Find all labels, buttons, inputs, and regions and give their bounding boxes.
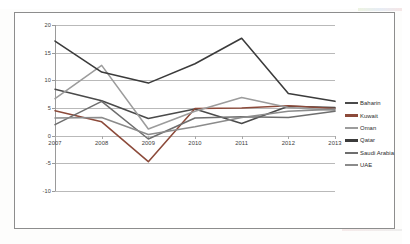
legend-item-label: UAE <box>360 162 372 168</box>
plot-area: 20151050-5-10 20072008200920102011201220… <box>55 25 335 191</box>
legend-swatch-icon <box>345 164 358 166</box>
legend-item-baharin[interactable]: Baharin <box>345 97 410 109</box>
y-axis-tick-label: -10 <box>43 188 51 194</box>
chart-frame: 20151050-5-10 20072008200920102011201220… <box>14 12 395 229</box>
series-line-qatar <box>55 38 335 101</box>
legend-item-oman[interactable]: Oman <box>345 122 410 134</box>
legend-item-label: Kuwait <box>360 113 378 119</box>
legend-item-saudi-arabia[interactable]: Saudi Arabia <box>345 147 410 159</box>
legend-swatch-icon <box>345 127 358 129</box>
chart-legend: BaharinKuwaitOmanQatarSaudi ArabiaUAE <box>345 97 410 171</box>
legend-item-label: Baharin <box>360 100 381 106</box>
y-axis-tick-mark <box>52 191 55 192</box>
series-lines-group <box>55 25 335 191</box>
y-axis-tick-label: 20 <box>45 22 51 28</box>
legend-swatch-icon <box>345 139 358 141</box>
scan-artifact-bottom-right <box>342 229 402 231</box>
legend-swatch-icon <box>345 152 358 154</box>
series-line-kuwait <box>55 106 335 162</box>
legend-item-uae[interactable]: UAE <box>345 159 410 171</box>
legend-item-label: Oman <box>360 125 376 131</box>
series-line-oman <box>55 65 335 129</box>
legend-swatch-icon <box>345 114 358 116</box>
y-axis-tick-label: 15 <box>45 50 51 56</box>
legend-item-qatar[interactable]: Qatar <box>345 134 410 146</box>
x-axis-tick-mark <box>335 136 336 139</box>
y-axis-tick-label: -5 <box>46 160 51 166</box>
y-axis-tick-label: 0 <box>48 133 51 139</box>
series-line-uae <box>55 109 335 134</box>
y-axis-tick-label: 5 <box>48 105 51 111</box>
scan-artifact-top-right <box>358 8 402 11</box>
gridline <box>55 191 335 192</box>
legend-item-label: Saudi Arabia <box>360 150 394 156</box>
legend-item-kuwait[interactable]: Kuwait <box>345 109 410 121</box>
scan-edge-top <box>0 0 410 9</box>
legend-item-label: Qatar <box>360 137 375 143</box>
legend-swatch-icon <box>345 102 358 104</box>
screenshot-root: 20151050-5-10 20072008200920102011201220… <box>0 0 410 244</box>
y-axis-tick-label: 10 <box>45 77 51 83</box>
